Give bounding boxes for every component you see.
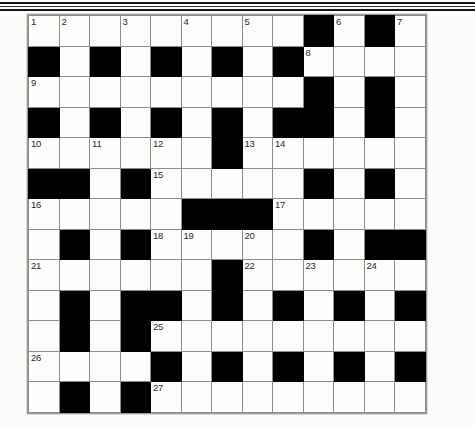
crossword-cell[interactable]: 14 bbox=[273, 138, 304, 169]
crossword-cell[interactable] bbox=[334, 77, 365, 108]
crossword-cell[interactable] bbox=[273, 382, 304, 413]
crossword-cell[interactable]: 16 bbox=[29, 199, 60, 230]
crossword-cell[interactable] bbox=[29, 229, 60, 260]
crossword-cell[interactable]: 24 bbox=[364, 260, 395, 291]
crossword-cell[interactable]: 2 bbox=[59, 16, 90, 47]
crossword-cell[interactable]: 12 bbox=[151, 138, 182, 169]
crossword-cell[interactable] bbox=[59, 260, 90, 291]
crossword-cell[interactable]: 23 bbox=[303, 260, 334, 291]
crossword-cell[interactable] bbox=[364, 46, 395, 77]
crossword-cell[interactable] bbox=[90, 351, 121, 382]
crossword-cell[interactable] bbox=[151, 199, 182, 230]
crossword-cell[interactable] bbox=[273, 260, 304, 291]
crossword-cell[interactable] bbox=[90, 77, 121, 108]
crossword-cell[interactable] bbox=[242, 382, 273, 413]
crossword-cell[interactable]: 7 bbox=[395, 16, 426, 47]
crossword-cell[interactable] bbox=[59, 46, 90, 77]
crossword-cell[interactable] bbox=[303, 199, 334, 230]
crossword-cell[interactable] bbox=[242, 77, 273, 108]
crossword-cell[interactable] bbox=[181, 260, 212, 291]
crossword-cell[interactable] bbox=[395, 382, 426, 413]
crossword-cell[interactable] bbox=[273, 321, 304, 352]
crossword-cell[interactable] bbox=[334, 199, 365, 230]
crossword-cell[interactable] bbox=[181, 290, 212, 321]
crossword-cell[interactable] bbox=[395, 138, 426, 169]
crossword-cell[interactable] bbox=[212, 382, 243, 413]
crossword-cell[interactable] bbox=[90, 16, 121, 47]
crossword-cell[interactable] bbox=[90, 229, 121, 260]
crossword-cell[interactable]: 26 bbox=[29, 351, 60, 382]
crossword-cell[interactable] bbox=[273, 168, 304, 199]
crossword-cell[interactable] bbox=[181, 107, 212, 138]
crossword-cell[interactable] bbox=[334, 382, 365, 413]
crossword-cell[interactable] bbox=[364, 290, 395, 321]
crossword-cell[interactable] bbox=[181, 77, 212, 108]
crossword-cell[interactable] bbox=[59, 138, 90, 169]
crossword-cell[interactable]: 10 bbox=[29, 138, 60, 169]
crossword-cell[interactable] bbox=[181, 382, 212, 413]
crossword-cell[interactable] bbox=[395, 199, 426, 230]
crossword-cell[interactable] bbox=[395, 46, 426, 77]
crossword-cell[interactable]: 22 bbox=[242, 260, 273, 291]
crossword-cell[interactable]: 3 bbox=[120, 16, 151, 47]
crossword-cell[interactable] bbox=[29, 290, 60, 321]
crossword-cell[interactable] bbox=[29, 321, 60, 352]
crossword-cell[interactable]: 4 bbox=[181, 16, 212, 47]
crossword-cell[interactable] bbox=[151, 16, 182, 47]
crossword-cell[interactable] bbox=[120, 199, 151, 230]
crossword-cell[interactable] bbox=[59, 199, 90, 230]
crossword-cell[interactable]: 27 bbox=[151, 382, 182, 413]
crossword-cell[interactable]: 6 bbox=[334, 16, 365, 47]
crossword-cell[interactable] bbox=[212, 77, 243, 108]
crossword-cell[interactable] bbox=[151, 260, 182, 291]
crossword-cell[interactable] bbox=[395, 260, 426, 291]
crossword-cell[interactable] bbox=[212, 16, 243, 47]
crossword-cell[interactable] bbox=[334, 46, 365, 77]
crossword-cell[interactable] bbox=[212, 321, 243, 352]
crossword-cell[interactable] bbox=[334, 321, 365, 352]
crossword-cell[interactable] bbox=[273, 16, 304, 47]
crossword-cell[interactable]: 19 bbox=[181, 229, 212, 260]
crossword-cell[interactable] bbox=[90, 382, 121, 413]
crossword-cell[interactable] bbox=[395, 321, 426, 352]
crossword-cell[interactable] bbox=[59, 77, 90, 108]
crossword-cell[interactable]: 20 bbox=[242, 229, 273, 260]
crossword-cell[interactable] bbox=[181, 168, 212, 199]
crossword-cell[interactable] bbox=[242, 290, 273, 321]
crossword-cell[interactable] bbox=[90, 199, 121, 230]
crossword-cell[interactable] bbox=[120, 46, 151, 77]
crossword-cell[interactable] bbox=[273, 229, 304, 260]
crossword-cell[interactable]: 5 bbox=[242, 16, 273, 47]
crossword-cell[interactable] bbox=[364, 199, 395, 230]
crossword-cell[interactable] bbox=[242, 46, 273, 77]
crossword-cell[interactable] bbox=[303, 382, 334, 413]
crossword-cell[interactable] bbox=[212, 229, 243, 260]
crossword-cell[interactable] bbox=[364, 321, 395, 352]
crossword-cell[interactable] bbox=[395, 168, 426, 199]
crossword-cell[interactable]: 18 bbox=[151, 229, 182, 260]
crossword-cell[interactable] bbox=[395, 107, 426, 138]
crossword-cell[interactable]: 13 bbox=[242, 138, 273, 169]
crossword-cell[interactable] bbox=[334, 229, 365, 260]
crossword-cell[interactable] bbox=[120, 107, 151, 138]
crossword-cell[interactable] bbox=[334, 107, 365, 138]
crossword-cell[interactable] bbox=[90, 260, 121, 291]
crossword-cell[interactable] bbox=[364, 138, 395, 169]
crossword-cell[interactable] bbox=[334, 138, 365, 169]
crossword-cell[interactable] bbox=[364, 382, 395, 413]
crossword-cell[interactable] bbox=[303, 290, 334, 321]
crossword-cell[interactable] bbox=[303, 138, 334, 169]
crossword-cell[interactable] bbox=[151, 77, 182, 108]
crossword-cell[interactable] bbox=[120, 351, 151, 382]
crossword-cell[interactable] bbox=[273, 77, 304, 108]
crossword-cell[interactable] bbox=[334, 260, 365, 291]
crossword-cell[interactable] bbox=[120, 138, 151, 169]
crossword-cell[interactable] bbox=[181, 138, 212, 169]
crossword-cell[interactable] bbox=[212, 168, 243, 199]
crossword-cell[interactable]: 17 bbox=[273, 199, 304, 230]
crossword-cell[interactable]: 21 bbox=[29, 260, 60, 291]
crossword-cell[interactable] bbox=[181, 46, 212, 77]
crossword-cell[interactable] bbox=[242, 168, 273, 199]
crossword-cell[interactable] bbox=[181, 321, 212, 352]
crossword-cell[interactable] bbox=[334, 168, 365, 199]
